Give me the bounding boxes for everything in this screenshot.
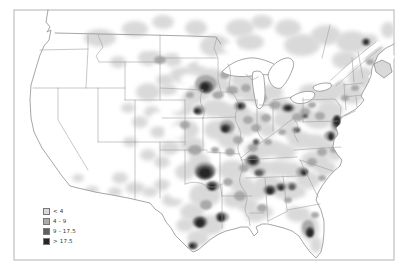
density-blob-level-4 bbox=[238, 104, 242, 108]
density-blob-level-4 bbox=[196, 219, 204, 227]
density-blob-level-2 bbox=[317, 148, 327, 156]
density-blob-level-1 bbox=[176, 218, 194, 232]
density-blob-level-2 bbox=[311, 212, 319, 218]
density-blob-level-0 bbox=[214, 54, 230, 66]
density-blob-level-0 bbox=[179, 49, 197, 61]
density-blob-level-1 bbox=[185, 20, 207, 36]
density-blob-level-2 bbox=[241, 84, 251, 92]
density-blob-level-2 bbox=[261, 114, 271, 122]
density-blob-level-0 bbox=[197, 57, 213, 67]
density-blob-level-3 bbox=[255, 170, 263, 176]
density-blob-level-2 bbox=[223, 178, 233, 186]
density-blob-level-4 bbox=[250, 158, 256, 164]
density-blob-level-4 bbox=[218, 215, 224, 221]
density-blob-level-0 bbox=[160, 97, 184, 113]
density-blob-level-1 bbox=[251, 15, 273, 29]
density-blob-level-3 bbox=[289, 184, 295, 190]
legend-label: 9 - 17.5 bbox=[53, 228, 76, 234]
legend-item: > 17.5 bbox=[43, 237, 76, 245]
density-blob-level-1 bbox=[310, 237, 322, 253]
density-blob-level-1 bbox=[121, 103, 135, 113]
density-blob-level-0 bbox=[180, 74, 196, 86]
density-blob-level-4 bbox=[285, 106, 291, 110]
density-blob-level-1 bbox=[140, 149, 156, 161]
density-blob-level-1 bbox=[112, 172, 128, 184]
density-blob-level-2 bbox=[243, 116, 253, 124]
density-blob-level-2 bbox=[264, 139, 272, 145]
density-blob-level-4 bbox=[364, 40, 368, 44]
legend-swatch-4-9 bbox=[43, 218, 50, 225]
legend-item: < 4 bbox=[43, 207, 76, 215]
density-blob-level-0 bbox=[223, 43, 237, 53]
density-blob-level-2 bbox=[257, 204, 267, 212]
legend-swatch-gt17.5 bbox=[43, 238, 50, 245]
density-blob-level-1 bbox=[275, 19, 301, 37]
density-blob-level-4 bbox=[329, 134, 333, 140]
legend-label: > 17.5 bbox=[53, 238, 73, 244]
legend-item: 9 - 17.5 bbox=[43, 227, 76, 235]
legend-label: < 4 bbox=[53, 208, 63, 214]
density-blob-level-2 bbox=[251, 124, 261, 132]
density-blob-level-1 bbox=[160, 141, 180, 155]
density-blob-level-4 bbox=[222, 126, 228, 132]
density-blob-level-0 bbox=[296, 198, 308, 206]
density-blob-level-4 bbox=[190, 244, 194, 248]
density-blob-level-2 bbox=[225, 148, 235, 156]
density-blob-level-2 bbox=[315, 112, 325, 120]
density-blob-level-1 bbox=[150, 126, 166, 138]
density-blob-level-2 bbox=[308, 102, 316, 108]
density-blob-level-4 bbox=[307, 229, 313, 237]
density-blob-level-2 bbox=[233, 136, 243, 144]
density-blob-level-2 bbox=[351, 85, 359, 91]
density-blob-level-4 bbox=[199, 168, 211, 178]
density-blob-level-4 bbox=[279, 186, 283, 190]
density-blob-level-2 bbox=[239, 164, 249, 172]
legend-item: 4 - 9 bbox=[43, 217, 76, 225]
density-blob-level-1 bbox=[236, 34, 264, 50]
density-blob-level-2 bbox=[307, 158, 317, 166]
map-legend: < 4 4 - 9 9 - 17.5 > 17.5 bbox=[43, 207, 76, 245]
density-blob-level-1 bbox=[159, 84, 177, 96]
density-blob-level-0 bbox=[157, 35, 179, 49]
density-blob-level-2 bbox=[186, 92, 194, 98]
density-blob-level-2 bbox=[318, 175, 326, 181]
density-blob-level-1 bbox=[381, 22, 395, 38]
density-blob-level-1 bbox=[142, 187, 158, 197]
legend-swatch-9-17.5 bbox=[43, 228, 50, 235]
legend-swatch-lt4 bbox=[43, 208, 50, 215]
density-blob-level-1 bbox=[136, 83, 160, 101]
density-blob-level-0 bbox=[142, 38, 158, 50]
density-blob-level-1 bbox=[156, 74, 174, 86]
density-blob-level-2 bbox=[200, 200, 212, 210]
density-blob-level-4 bbox=[267, 188, 273, 194]
density-blob-level-1 bbox=[84, 29, 116, 47]
density-blob-level-1 bbox=[259, 123, 277, 137]
density-blob-level-4 bbox=[195, 109, 199, 113]
density-blob-level-1 bbox=[72, 174, 84, 182]
density-blob-level-2 bbox=[366, 59, 374, 65]
density-blob-level-3 bbox=[253, 139, 259, 145]
density-blob-level-2 bbox=[278, 129, 286, 135]
density-blob-level-1 bbox=[154, 156, 170, 168]
density-blob-level-1 bbox=[132, 116, 148, 128]
density-blob-level-1 bbox=[152, 15, 174, 29]
density-blob-level-0 bbox=[174, 153, 190, 163]
density-blob-level-0 bbox=[168, 185, 188, 199]
density-blob-level-2 bbox=[284, 197, 292, 203]
map-figure: < 4 4 - 9 9 - 17.5 > 17.5 bbox=[0, 0, 409, 272]
legend-label: 4 - 9 bbox=[53, 218, 66, 224]
